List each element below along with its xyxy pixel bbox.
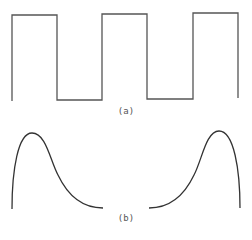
panel-a-label: (a) <box>106 106 146 116</box>
square-wave <box>12 13 238 101</box>
panel-b-label: (b) <box>106 213 146 223</box>
left-pulse-curve <box>12 133 103 209</box>
right-pulse-curve <box>149 131 240 208</box>
figure-canvas <box>0 0 252 240</box>
